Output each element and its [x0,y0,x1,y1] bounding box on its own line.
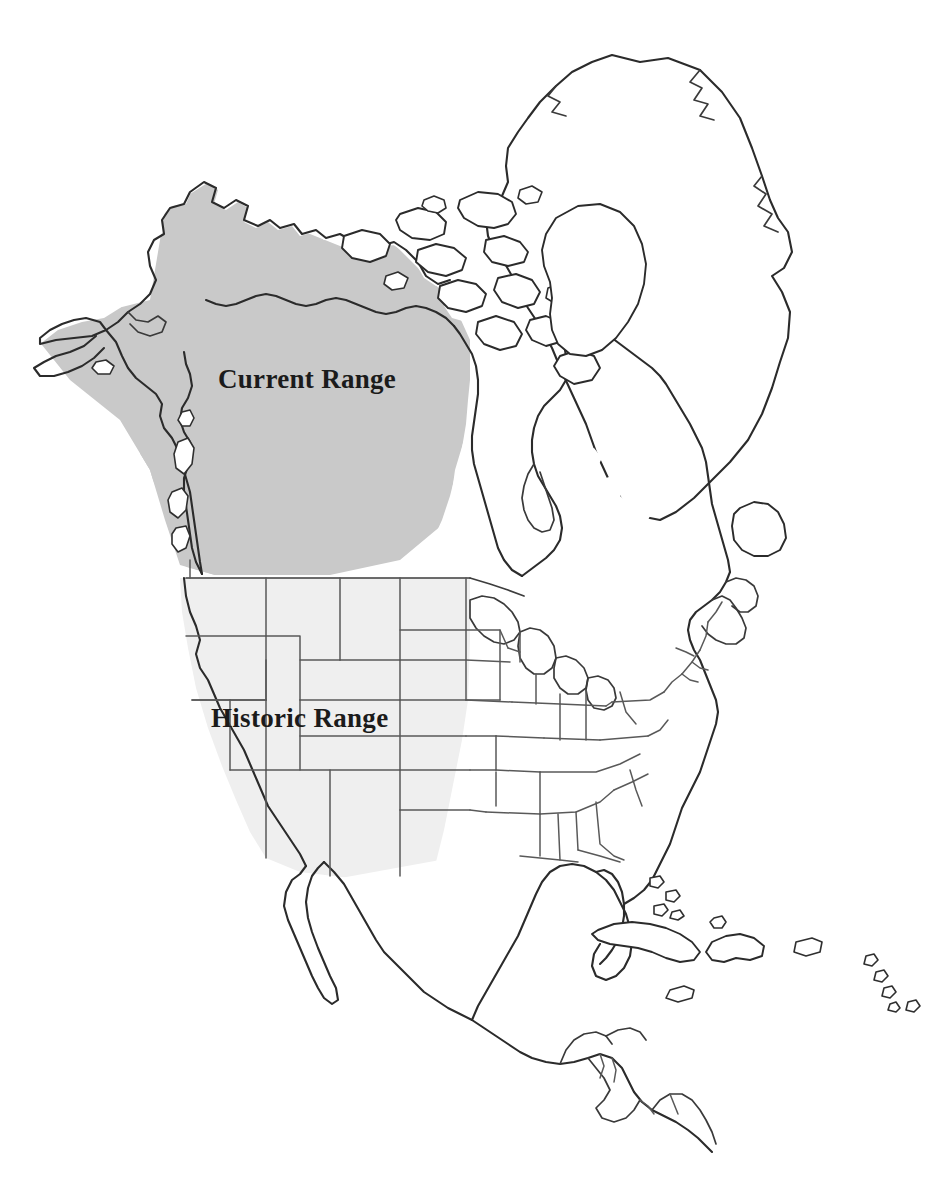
label-historic-range: Historic Range [211,703,388,733]
range-map-figure: Current Range Historic Range [0,0,935,1194]
label-current-range: Current Range [218,364,396,394]
caribbean-islands [592,876,920,1012]
mexico-central-america-borders [560,1028,678,1114]
map-canvas: Current Range Historic Range [0,0,935,1194]
